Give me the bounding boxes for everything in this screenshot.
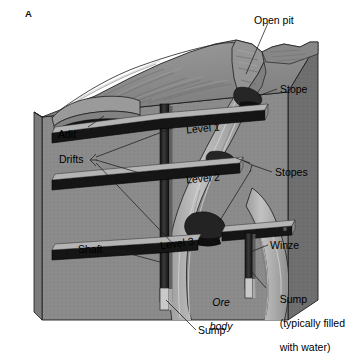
label-stope: Stope — [280, 83, 307, 95]
label-sump-bottom: Sump — [198, 324, 225, 336]
label-sump-right-line3: with water) — [280, 341, 331, 353]
label-winze: Winze — [270, 239, 299, 251]
label-ore-body-line1: Ore — [212, 296, 230, 308]
label-sump-right-line2: (typically filled — [280, 317, 345, 329]
block-left-face — [34, 112, 42, 320]
winze-sump — [245, 278, 253, 298]
main-shaft — [160, 104, 173, 310]
winze — [245, 233, 256, 298]
label-shaft: Shaft — [78, 243, 103, 255]
label-sump-right: Sump (typically filled with water) — [268, 281, 345, 354]
label-drifts: Drifts — [59, 153, 84, 165]
figure-container: A — [0, 0, 351, 354]
label-adit: Adit — [58, 128, 76, 140]
label-stopes: Stopes — [275, 166, 308, 178]
shaft-sump — [160, 288, 169, 310]
label-sump-right-line1: Sump — [280, 293, 307, 305]
label-open-pit: Open pit — [254, 14, 294, 26]
